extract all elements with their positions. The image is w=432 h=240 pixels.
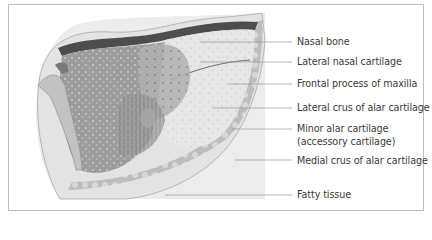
- minor-alar-cartilage-shape: [140, 108, 156, 128]
- label-nasal-bone: Nasal bone: [297, 36, 350, 48]
- label-medial-crus-of-alar-cartilage: Medial crus of alar cartilage: [297, 155, 428, 167]
- label-frontal-process-of-maxilla: Frontal process of maxilla: [297, 78, 417, 90]
- label-minor-alar-cartilage-accessory: (accessory cartilage): [297, 136, 395, 148]
- label-fatty-tissue: Fatty tissue: [297, 189, 351, 201]
- label-minor-alar-cartilage: Minor alar cartilage: [297, 123, 388, 135]
- label-lateral-nasal-cartilage: Lateral nasal cartilage: [297, 56, 402, 68]
- label-lateral-crus-of-alar-cartilage: Lateral crus of alar cartilage: [297, 102, 430, 114]
